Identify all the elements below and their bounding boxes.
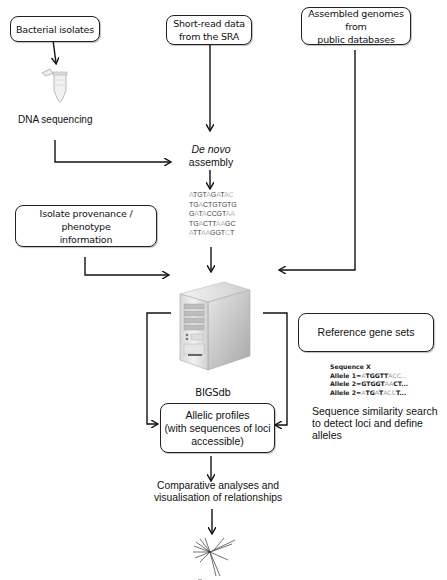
- box-short-read-data: Short-read data from the SRA: [166, 15, 252, 45]
- label-line1: Sequence similarity search: [312, 405, 447, 417]
- label-line2: to detect loci and define: [312, 417, 447, 429]
- label-line1: Comparative analyses and: [148, 480, 288, 492]
- box-label: Bacterial isolates: [16, 23, 94, 36]
- box-label-line2: (with sequences of loci: [164, 422, 270, 435]
- box-label-line1: Isolate provenance / phenotype: [16, 207, 156, 233]
- allele-row: Allele 2=ATGATACCT...: [330, 389, 408, 398]
- allele-row: Allele 2=GTGGTAACT...: [330, 380, 408, 389]
- box-reference-gene-sets: Reference gene sets: [298, 313, 434, 352]
- box-bacterial-isolates: Bacterial isolates: [10, 16, 100, 42]
- sequence-line: TGACTGTGTG: [189, 200, 237, 210]
- box-label-line2: public databases: [317, 33, 394, 46]
- allele-example-title: Sequence X: [330, 363, 408, 372]
- sequence-line: TGACTTAAGC: [189, 219, 237, 229]
- box-label-line3: accessible): [191, 435, 244, 448]
- sequence-line: ATTAAGGTCT: [189, 228, 237, 238]
- assembled-sequences: ATGTAGATACTGACTGTGTGGATACCGTAATGACTTAAGC…: [189, 190, 237, 238]
- arrow-genomes-to-bigsdb: [280, 50, 355, 270]
- allele-example: Sequence X Allele 1=ATGGTTACC...Allele 2…: [330, 363, 408, 397]
- label-similarity-search: Sequence similarity search to detect loc…: [312, 405, 447, 441]
- sequence-line: GATACCGTAA: [189, 209, 237, 219]
- box-isolate-provenance: Isolate provenance / phenotype informati…: [15, 205, 157, 247]
- database-server-icon: [172, 280, 257, 375]
- sequence-line: ATGTAGATAC: [189, 190, 237, 200]
- label-de-novo-assembly: De novo assembly: [186, 143, 236, 169]
- arrow-sequencing-to-assembly: [55, 140, 170, 162]
- box-allelic-profiles: Allelic profiles (with sequences of loci…: [160, 403, 275, 453]
- allele-row: Allele 1=ATGGTTACC...: [330, 372, 408, 381]
- box-label-line1: Assembled genomes from: [302, 7, 410, 33]
- arrow-isolates-to-tube: [53, 40, 56, 63]
- phylogenetic-tree-icon: [190, 536, 240, 580]
- box-label: Reference gene sets: [318, 326, 415, 339]
- box-label-line2: from the SRA: [179, 30, 239, 43]
- label-line3: alleles: [312, 429, 447, 441]
- label-de-novo: De novo: [186, 143, 236, 156]
- label-comparative-analyses: Comparative analyses and visualisation o…: [148, 480, 288, 504]
- label-dna-sequencing: DNA sequencing: [18, 113, 98, 126]
- microcentrifuge-tube-icon: [40, 66, 80, 106]
- label-bigsdb: BIGSdb: [188, 386, 238, 399]
- box-assembled-genomes: Assembled genomes from public databases: [301, 7, 411, 45]
- label-assembly: assembly: [186, 156, 236, 169]
- box-label-line2: information: [60, 233, 113, 246]
- box-label-line1: Allelic profiles: [185, 409, 249, 422]
- box-label-line1: Short-read data: [173, 17, 245, 30]
- arrow-provenance-to-bigsdb: [85, 257, 168, 275]
- label-line2: visualisation of relationships: [148, 492, 288, 504]
